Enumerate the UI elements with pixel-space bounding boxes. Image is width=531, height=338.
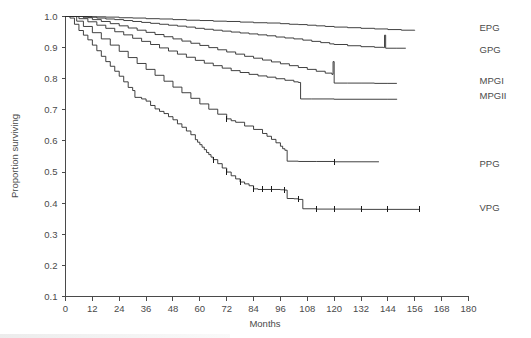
y-tick-label: 0.2 [44, 260, 57, 271]
x-tick-label: 72 [221, 303, 232, 314]
km-curve-mpgii [66, 17, 397, 100]
y-tick-label: 1.0 [44, 11, 57, 22]
x-tick-label: 168 [434, 303, 450, 314]
x-tick-label: 120 [326, 303, 342, 314]
x-tick-label: 180 [461, 303, 477, 314]
x-tick-label: 24 [114, 303, 125, 314]
curve-label-ppg: PPG [480, 158, 500, 169]
y-tick-label: 0.9 [44, 42, 57, 53]
curve-label-mpgii: MPGII [480, 90, 507, 101]
curve-end-labels: EPGGPGMPGIMPGIIPPGVPG [480, 22, 507, 213]
y-tick-label: 0.5 [44, 166, 57, 177]
km-curve-ppg [66, 17, 379, 162]
y-tick-label: 0.8 [44, 73, 57, 84]
x-tick-label: 108 [299, 303, 315, 314]
x-tick-label: 84 [248, 303, 259, 314]
survival-chart-figure: 0.10.20.30.40.50.60.70.80.91.0 012243648… [0, 0, 531, 338]
curve-label-mpgi: MPGI [480, 75, 504, 86]
x-tick-label: 132 [353, 303, 369, 314]
y-tick-label: 0.7 [44, 104, 57, 115]
x-tick-label: 36 [141, 303, 152, 314]
survival-curves [66, 17, 420, 210]
kaplan-meier-plot: 0.10.20.30.40.50.60.70.80.91.0 012243648… [0, 0, 531, 338]
y-tick-label: 0.1 [44, 291, 57, 302]
y-axis: 0.10.20.30.40.50.60.70.80.91.0 [44, 11, 65, 302]
curve-label-gpg: GPG [480, 44, 501, 55]
x-tick-label: 156 [407, 303, 423, 314]
km-curve-mpgi [66, 17, 397, 84]
x-tick-label: 12 [87, 303, 98, 314]
censoring-marks [213, 116, 419, 213]
y-tick-label: 0.6 [44, 135, 57, 146]
x-tick-label: 60 [195, 303, 206, 314]
y-axis-title: Proportion surviving [9, 114, 20, 198]
y-tick-label: 0.4 [44, 198, 57, 209]
curve-label-vpg: VPG [480, 202, 500, 213]
x-tick-label: 48 [168, 303, 179, 314]
x-axis-title: Months [249, 318, 280, 329]
x-tick-label: 0 [63, 303, 68, 314]
y-tick-label: 0.3 [44, 229, 57, 240]
x-tick-label: 96 [275, 303, 286, 314]
x-axis: 01224364860728496108120132144156168180 [63, 297, 477, 314]
page-edge-artifact [0, 334, 230, 338]
x-tick-label: 144 [380, 303, 396, 314]
curve-label-epg: EPG [480, 22, 500, 33]
